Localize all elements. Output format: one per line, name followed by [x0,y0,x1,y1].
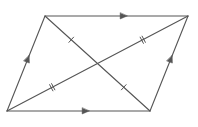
parallel-arrow-icon [24,56,30,64]
diagonal-bottom-left-to-top-right [7,16,188,111]
parallel-arrow-icon [167,56,173,64]
parallel-arrow-icon [82,108,89,114]
parallel-arrow-icon [120,13,127,19]
side-left [7,16,45,111]
parallelogram-diagram [0,0,198,127]
side-right [150,16,188,111]
